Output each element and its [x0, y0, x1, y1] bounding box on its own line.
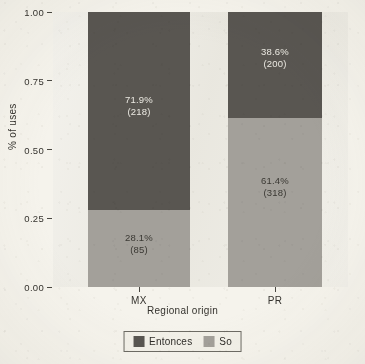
bar-pr-entonces-pct: 38.6% — [228, 46, 322, 58]
y-tick-dash — [47, 12, 52, 13]
bar-pr-so-label: 61.4% (318) — [228, 175, 322, 199]
legend-swatch-so — [203, 336, 214, 347]
y-tick-0.00: 0.00 — [24, 282, 53, 293]
legend-label-so: So — [219, 336, 232, 347]
plot-panel: 1.00 0.75 0.50 0.25 0.00 71.9% (218) — [53, 12, 348, 287]
legend-label-entonces: Entonces — [149, 336, 192, 347]
y-tick-dash — [47, 80, 52, 81]
stacked-bar-chart: 1.00 0.75 0.50 0.25 0.00 71.9% (218) — [0, 0, 365, 364]
y-tick-label: 0.75 — [24, 75, 44, 86]
bar-pr-so-pct: 61.4% — [228, 175, 322, 187]
y-tick-0.75: 0.75 — [24, 75, 53, 86]
x-tick-mark-pr — [275, 287, 276, 292]
y-tick-dash — [47, 287, 52, 288]
bar-mx-so-segment[interactable]: 28.1% (85) — [88, 210, 190, 287]
bar-mx-entonces-segment[interactable]: 71.9% (218) — [88, 12, 190, 210]
y-tick-1.00: 1.00 — [24, 7, 53, 18]
bar-pr-so-count: (318) — [228, 187, 322, 199]
legend-swatch-entonces — [133, 336, 144, 347]
bar-mx-entonces-pct: 71.9% — [88, 94, 190, 106]
bar-mx-so-pct: 28.1% — [88, 232, 190, 244]
y-tick-dash — [47, 218, 52, 219]
x-axis-title: Regional origin — [0, 305, 365, 316]
legend: Entonces So — [123, 331, 242, 352]
bar-pr-so-segment[interactable]: 61.4% (318) — [228, 118, 322, 287]
bar-pr-entonces-segment[interactable]: 38.6% (200) — [228, 12, 322, 118]
bar-pr-entonces-count: (200) — [228, 58, 322, 70]
y-tick-dash — [47, 149, 52, 150]
y-axis-title: % of uses — [7, 103, 18, 150]
y-tick-label: 0.25 — [24, 213, 44, 224]
bar-mx-entonces-label: 71.9% (218) — [88, 94, 190, 118]
bar-mx[interactable]: 71.9% (218) 28.1% (85) MX — [88, 12, 190, 287]
legend-item-so[interactable]: So — [203, 336, 232, 347]
y-tick-0.25: 0.25 — [24, 213, 53, 224]
legend-item-entonces[interactable]: Entonces — [133, 336, 192, 347]
bar-mx-so-count: (85) — [88, 244, 190, 256]
y-tick-label: 1.00 — [24, 7, 44, 18]
bar-pr-entonces-label: 38.6% (200) — [228, 46, 322, 70]
y-tick-0.50: 0.50 — [24, 144, 53, 155]
y-tick-label: 0.00 — [24, 282, 44, 293]
y-tick-label: 0.50 — [24, 144, 44, 155]
bar-mx-entonces-count: (218) — [88, 106, 190, 118]
x-tick-mark-mx — [139, 287, 140, 292]
bar-mx-so-label: 28.1% (85) — [88, 232, 190, 256]
bar-pr[interactable]: 38.6% (200) 61.4% (318) PR — [228, 12, 322, 287]
